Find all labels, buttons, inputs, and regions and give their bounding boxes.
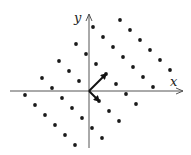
lattice-point <box>158 58 162 62</box>
lattice-point <box>33 103 37 107</box>
lattice-point <box>84 52 88 56</box>
short-basis-vector <box>89 91 99 101</box>
lattice-diagram: x y <box>0 0 191 155</box>
lattice-point <box>53 123 57 127</box>
lattice-point <box>63 133 67 137</box>
lattice-point <box>124 92 128 96</box>
y-axis-label: y <box>73 10 82 25</box>
lattice-point <box>131 65 135 69</box>
lattice-point <box>43 113 47 117</box>
lattice-point <box>94 62 98 66</box>
lattice-point <box>80 116 84 120</box>
long-basis-vector <box>89 74 106 91</box>
x-axis-label: x <box>170 74 178 89</box>
lattice-point <box>73 143 77 147</box>
lattice-point <box>23 93 27 97</box>
lattice-point <box>101 35 105 39</box>
lattice-point <box>117 119 121 123</box>
lattice-point <box>138 38 142 42</box>
lattice-point <box>74 42 78 46</box>
lattice-point <box>70 106 74 110</box>
lattice-point <box>118 18 122 22</box>
lattice-point <box>77 79 81 83</box>
lattice-point <box>67 69 71 73</box>
lattice-point <box>141 75 145 79</box>
lattice-point <box>50 86 54 90</box>
lattice-point <box>148 48 152 52</box>
lattice-point <box>100 136 104 140</box>
lattice-point <box>134 102 138 106</box>
lattice-point <box>111 45 115 49</box>
lattice-point <box>90 126 94 130</box>
lattice-point <box>151 85 155 89</box>
lattice-point <box>57 59 61 63</box>
lattice-point <box>121 55 125 59</box>
lattice-point <box>60 96 64 100</box>
lattice-point <box>128 28 132 32</box>
lattice-point <box>107 109 111 113</box>
lattice-point <box>40 76 44 80</box>
lattice-point <box>114 82 118 86</box>
lattice-plot: x y <box>0 0 191 155</box>
lattice-point <box>91 25 95 29</box>
lattice-point <box>168 68 172 72</box>
